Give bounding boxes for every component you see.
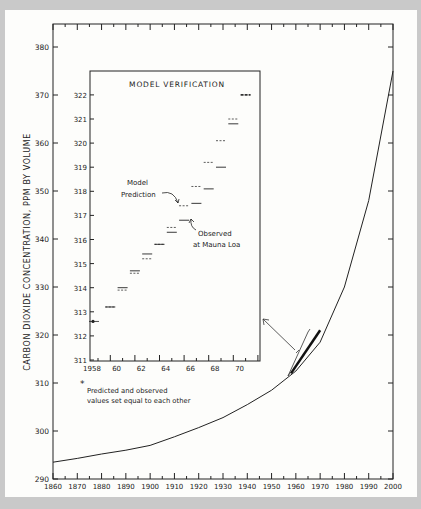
y-tick-label: 340: [35, 235, 50, 244]
observed-label-1: Observed: [198, 230, 232, 238]
footnote-star: *: [80, 379, 85, 389]
inset-y-tick-label: 314: [74, 285, 88, 293]
co2-chart: 2903003103203303403503603703801860187018…: [0, 0, 421, 509]
observed-label-2: at Mauna Loa: [193, 241, 240, 249]
y-tick-label: 310: [35, 379, 50, 388]
inset-y-tick-label: 318: [74, 188, 87, 196]
x-tick-label: 1940: [238, 483, 256, 491]
x-tick-label: 1910: [166, 483, 184, 491]
x-tick-label: 1860: [44, 483, 62, 491]
inset-y-tick-label: 311: [74, 357, 87, 365]
inset-x-tick-label: 64: [161, 365, 170, 373]
inset-y-tick-label: 317: [74, 212, 87, 220]
y-tick-label: 360: [35, 139, 50, 148]
inset-y-tick-label: 315: [74, 261, 87, 269]
y-tick-label: 370: [35, 91, 50, 100]
inset-x-tick-label: 62: [137, 365, 146, 373]
footnote-line-2: values set equal to each other: [87, 397, 191, 405]
inset-y-tick-label: 312: [74, 333, 87, 341]
y-axis-label: CARBON DIOXIDE CONCENTRATION, PPM BY VOL…: [23, 133, 32, 371]
footnote-line-1: Predicted and observed: [87, 387, 168, 395]
model-prediction-label-2: Prediction: [121, 191, 156, 199]
model-prediction-label-1: Model: [127, 179, 148, 187]
inset-y-tick-label: 322: [74, 92, 87, 100]
inset-title: MODEL VERIFICATION: [129, 80, 225, 89]
x-tick-label: 1970: [311, 483, 329, 491]
y-tick-label: 300: [35, 427, 50, 436]
x-tick-label: 1890: [117, 483, 135, 491]
x-tick-label: 1900: [141, 483, 159, 491]
inset-y-tick-label: 321: [74, 116, 87, 124]
x-tick-label: 1990: [360, 483, 378, 491]
inset-y-tick-label: 319: [74, 164, 87, 172]
y-tick-label: 380: [35, 43, 50, 52]
inset-x-tick-label: 1958: [83, 365, 101, 373]
inset-model-verification: 3113123133143153163173183193203213221958…: [74, 71, 260, 373]
inset-x-tick-label: 68: [211, 365, 220, 373]
x-tick-label: 2000: [384, 483, 402, 491]
x-tick-label: 1930: [214, 483, 232, 491]
x-tick-label: 1920: [190, 483, 208, 491]
inset-x-tick-label: 60: [112, 365, 121, 373]
y-tick-label: 350: [35, 187, 50, 196]
x-tick-label: 1880: [93, 483, 111, 491]
inset-y-tick-label: 320: [74, 140, 87, 148]
inset-y-tick-label: 313: [74, 309, 87, 317]
x-tick-label: 1950: [263, 483, 281, 491]
y-tick-label: 320: [35, 331, 50, 340]
inset-y-tick-label: 316: [74, 237, 88, 245]
x-tick-label: 1960: [287, 483, 305, 491]
inset-x-tick-label: 70: [235, 365, 244, 373]
y-tick-label: 330: [35, 283, 50, 292]
x-tick-label: 1870: [68, 483, 86, 491]
inset-x-tick-label: 66: [186, 365, 195, 373]
x-tick-label: 1980: [336, 483, 354, 491]
